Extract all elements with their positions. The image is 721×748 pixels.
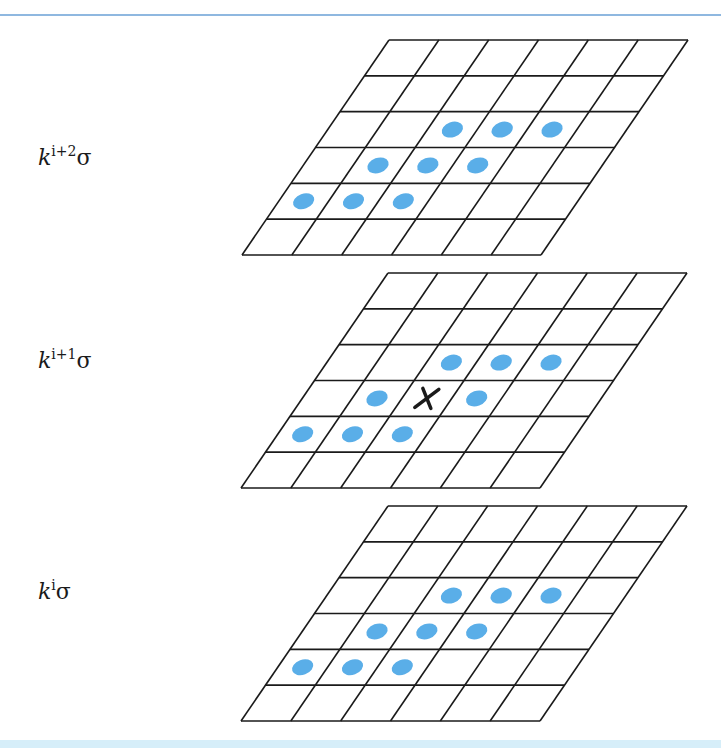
neighbor-dot-icon: [389, 656, 415, 678]
scale-space-diagram: [0, 0, 721, 748]
neighbor-dot-icon: [340, 423, 366, 445]
neighbor-dot-icon: [464, 388, 490, 410]
neighbor-dot-icon: [488, 585, 514, 607]
neighbor-dot-icon: [439, 119, 465, 141]
neighbor-dot-icon: [341, 190, 367, 212]
neighbor-dot-icon: [539, 119, 565, 141]
neighbor-dot-icon: [438, 585, 464, 607]
neighbor-dot-icon: [291, 190, 317, 212]
neighbor-dot-icon: [465, 155, 491, 177]
neighbor-dot-icon: [464, 621, 490, 643]
bottom-band: [0, 740, 721, 748]
neighbor-dot-icon: [365, 155, 391, 177]
neighbor-dot-icon: [390, 190, 416, 212]
neighbor-dot-icon: [489, 119, 515, 141]
grid-layer-top: [242, 40, 688, 255]
neighbor-dot-icon: [340, 656, 366, 678]
grid-layer-bottom: [241, 506, 687, 721]
grid-layer-middle: [241, 273, 687, 488]
neighbor-dot-icon: [538, 352, 564, 374]
center-pixel-x-icon: [415, 388, 439, 408]
neighbor-dot-icon: [364, 621, 390, 643]
neighbor-dot-icon: [414, 621, 440, 643]
neighbor-dot-icon: [290, 423, 316, 445]
neighbor-dot-icon: [488, 352, 514, 374]
neighbor-dot-icon: [364, 388, 390, 410]
neighbor-dot-icon: [538, 585, 564, 607]
neighbor-dot-icon: [389, 423, 415, 445]
neighbor-dot-icon: [438, 352, 464, 374]
neighbor-dot-icon: [290, 656, 316, 678]
neighbor-dot-icon: [415, 155, 441, 177]
